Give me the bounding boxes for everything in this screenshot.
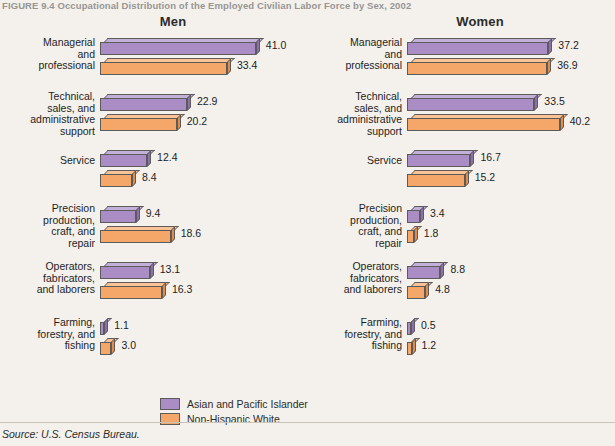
bar-asian-pacific-islander (100, 150, 147, 163)
bar-face (100, 210, 136, 223)
bar-non-hispanic-white (100, 338, 111, 351)
bar-face (100, 118, 177, 131)
bar-row: 4.8 (407, 279, 610, 296)
bar-row: 1.8 (407, 223, 610, 240)
bar-pair: 33.540.2 (407, 91, 610, 131)
bar-row: 18.6 (100, 223, 303, 240)
bar-non-hispanic-white (100, 114, 177, 127)
category-label: Technical,sales, andadministrativesuppor… (3, 91, 95, 137)
bar-value-label: 20.2 (187, 115, 207, 127)
bar-side (132, 170, 136, 187)
bar-row: 33.5 (407, 91, 610, 108)
legend-label: Non-Hispanic White (187, 413, 280, 425)
bar-side (470, 150, 474, 167)
bar-value-label: 12.4 (157, 151, 177, 163)
bar-value-label: 3.4 (430, 207, 445, 219)
bar-face (100, 42, 256, 55)
bar-pair: 3.41.8 (407, 203, 610, 243)
bar-pair: 8.84.8 (407, 259, 610, 299)
bar-side (465, 170, 469, 187)
bar-asian-pacific-islander (100, 94, 187, 107)
bar-asian-pacific-islander (100, 318, 104, 331)
bar-row: 41.0 (100, 35, 303, 52)
category-label: Farming,forestry, andfishing (310, 317, 402, 352)
bar-face (407, 118, 560, 131)
bar-value-label: 22.9 (197, 95, 217, 107)
bar-row: 0.5 (407, 315, 610, 332)
bar-pair: 41.033.4 (100, 35, 303, 75)
bar-group: Farming,forestry, andfishing0.51.2 (310, 315, 610, 359)
bar-group-list-women: Managerialandprofessional37.236.9Technic… (310, 35, 610, 359)
bar-side (136, 206, 140, 223)
category-label: Managerialandprofessional (310, 37, 402, 72)
bar-side (111, 338, 115, 355)
bar-value-label: 1.8 (424, 227, 439, 239)
bar-side (420, 206, 424, 223)
chart-panel-men: Men Managerialandprofessional41.033.4Tec… (3, 14, 303, 404)
category-label: Technical,sales, andadministrativesuppor… (310, 91, 402, 137)
bar-face (407, 286, 425, 299)
bar-row: 8.4 (100, 167, 303, 184)
bar-value-label: 16.3 (172, 283, 192, 295)
bar-group: Operators,fabricators,and laborers13.116… (3, 259, 303, 315)
category-label: Service (310, 155, 402, 167)
bar-pair: 12.48.4 (100, 147, 303, 187)
bar-pair: 13.116.3 (100, 259, 303, 299)
legend-label: Asian and Pacific Islander (187, 398, 308, 410)
bar-group: Service12.48.4 (3, 147, 303, 203)
bar-non-hispanic-white (407, 338, 412, 351)
bar-group: Managerialandprofessional37.236.9 (310, 35, 610, 91)
bar-non-hispanic-white (407, 226, 414, 239)
bar-asian-pacific-islander (100, 206, 136, 219)
legend-swatch-non-hispanic-white (160, 413, 180, 425)
bar-side (227, 58, 231, 75)
bar-row: 16.3 (100, 279, 303, 296)
bar-row: 40.2 (407, 111, 610, 128)
bar-side (411, 318, 415, 335)
bar-asian-pacific-islander (407, 262, 440, 275)
bar-value-label: 18.6 (181, 227, 201, 239)
source-note: Source: U.S. Census Bureau. (2, 428, 140, 440)
bar-side (440, 262, 444, 279)
bar-value-label: 15.2 (475, 171, 495, 183)
bar-row: 22.9 (100, 91, 303, 108)
bar-side (412, 338, 416, 355)
bar-asian-pacific-islander (407, 206, 420, 219)
bar-row: 16.7 (407, 147, 610, 164)
bar-value-label: 1.2 (422, 339, 437, 351)
bar-group: Technical,sales, andadministrativesuppor… (310, 91, 610, 147)
bar-non-hispanic-white (100, 170, 132, 183)
bar-row: 37.2 (407, 35, 610, 52)
bar-non-hispanic-white (407, 114, 560, 127)
bar-asian-pacific-islander (407, 150, 470, 163)
bar-side (547, 58, 551, 75)
bar-non-hispanic-white (100, 282, 162, 295)
bar-side (187, 94, 191, 111)
panel-title-men: Men (3, 14, 303, 29)
bar-face (100, 342, 111, 355)
bar-group-list-men: Managerialandprofessional41.033.4Technic… (3, 35, 303, 359)
bar-group: Farming,forestry, andfishing1.13.0 (3, 315, 303, 359)
bar-value-label: 13.1 (160, 263, 180, 275)
bar-row: 36.9 (407, 55, 610, 72)
legend-item: Asian and Pacific Islander (160, 398, 308, 410)
bar-group: Operators,fabricators,and laborers8.84.8 (310, 259, 610, 315)
bar-side (425, 282, 429, 299)
bar-face (407, 266, 440, 279)
bar-value-label: 33.5 (544, 95, 564, 107)
bar-asian-pacific-islander (407, 38, 548, 51)
bar-row: 15.2 (407, 167, 610, 184)
bar-value-label: 3.0 (121, 339, 136, 351)
bar-face (100, 174, 132, 187)
bar-value-label: 40.2 (570, 115, 590, 127)
bar-asian-pacific-islander (100, 38, 256, 51)
category-label: Service (3, 155, 95, 167)
bar-face (100, 286, 162, 299)
bar-pair: 22.920.2 (100, 91, 303, 131)
bar-side (177, 114, 181, 131)
bar-face (407, 98, 534, 111)
bar-side (104, 318, 108, 335)
bar-value-label: 9.4 (146, 207, 161, 219)
bar-pair: 16.715.2 (407, 147, 610, 187)
bar-side (534, 94, 538, 111)
